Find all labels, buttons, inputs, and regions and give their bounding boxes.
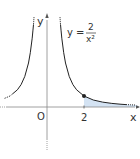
function-numerator: 2 [88,22,94,32]
function-denominator: x² [86,34,95,44]
tick-label-2: 2 [81,112,87,123]
function-label: y = 2 x² [67,22,96,44]
y-axis-label: y [37,15,44,28]
point-marker [82,94,86,98]
x-axis-arrow-icon [136,105,140,108]
x-axis-label: x [130,111,137,124]
y-axis [45,13,48,150]
curve-left-branch [4,17,34,98]
function-lhs: y = [67,27,84,38]
y-axis-arrow-icon [45,13,48,18]
function-graph: y x O 2 y = 2 x² [0,0,140,159]
origin-label: O [37,111,45,122]
shaded-area [84,96,138,107]
